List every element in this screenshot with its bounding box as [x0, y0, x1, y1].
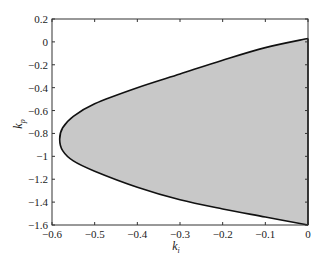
y-tick-label: −0.2 [28, 59, 48, 71]
y-tick-label: −1.6 [28, 219, 48, 231]
x-tick-label: 0 [305, 228, 311, 240]
y-tick-label: −0.4 [28, 82, 48, 94]
y-tick-label: 0 [43, 36, 49, 48]
x-tick-label: −0.2 [213, 228, 233, 240]
x-axis-label: ki [172, 239, 180, 255]
y-tick-label: 0.2 [34, 13, 48, 25]
y-axis-label: kp [11, 119, 27, 128]
stability-region-chart: −0.6−0.5−0.4−0.3−0.2−0.10 0.20−0.2−0.4−0… [0, 0, 324, 268]
region-fill [60, 38, 308, 225]
stability-region [60, 38, 308, 225]
y-tick-label: −1 [36, 150, 48, 162]
x-tick-label: −0.1 [255, 228, 275, 240]
y-tick-label: −1.2 [28, 173, 48, 185]
x-tick-label: −0.4 [127, 228, 147, 240]
y-tick-label: −0.6 [28, 105, 48, 117]
x-tick-label: −0.5 [85, 228, 105, 240]
y-tick-label: −1.4 [28, 196, 48, 208]
y-tick-label: −0.8 [28, 127, 48, 139]
